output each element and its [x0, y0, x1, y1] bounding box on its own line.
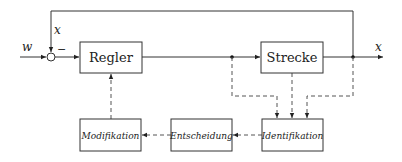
- summing-junction: [47, 53, 55, 61]
- label-feedback-x: x: [54, 23, 61, 37]
- label-output-x: x: [375, 40, 382, 54]
- block-entscheidung: Entscheidung: [169, 119, 233, 151]
- block-label: Modifikation: [81, 131, 140, 141]
- block-regler: Regler: [80, 42, 142, 73]
- adaptive-control-diagram: Regler Strecke Modifikation Entscheidung…: [0, 0, 402, 162]
- label-minus-sign: −: [57, 43, 66, 56]
- block-label: Identifikation: [261, 131, 324, 141]
- block-modifikation: Modifikation: [80, 119, 141, 151]
- block-identifikation: Identifikation: [261, 119, 324, 151]
- label-w: w: [22, 40, 33, 54]
- block-label: Strecke: [267, 50, 318, 65]
- block-label: Entscheidung: [169, 131, 233, 141]
- block-strecke: Strecke: [261, 42, 323, 73]
- block-label: Regler: [89, 50, 134, 65]
